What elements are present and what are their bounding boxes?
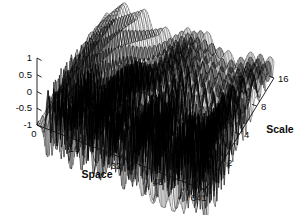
y-tick-label-1: 2 [227, 157, 232, 168]
z-tick-label-3: -0.5 [16, 102, 32, 113]
z-tick-label-2: 0 [27, 86, 32, 97]
z-tick-1 [37, 75, 42, 78]
z-tick-label-0: 1 [27, 52, 32, 63]
z-tick-0 [37, 58, 42, 61]
plot-canvas: 1 0.5 0 -0.5 -1 0 16 32 48 64 Space [0, 0, 307, 215]
x-tick-label-4: 64 [191, 192, 202, 203]
x-tick-label-0: 0 [31, 128, 36, 139]
y-tick-label-2: 4 [244, 129, 249, 140]
y-tick-label-0: 1 [201, 192, 206, 203]
x-tick-label-1: 16 [69, 143, 80, 154]
x-axis-title: Space [82, 168, 113, 180]
x-tick-label-3: 48 [153, 176, 164, 187]
y-tick-3 [252, 104, 257, 106]
z-tick-2 [37, 92, 42, 95]
surface-plot-figure: 1 0.5 0 -0.5 -1 0 16 32 48 64 Space [0, 0, 307, 215]
y-axis-title: Scale [266, 123, 294, 135]
z-axis: 1 0.5 0 -0.5 -1 [16, 52, 42, 130]
z-tick-label-1: 0.5 [19, 69, 32, 80]
y-tick-label-3: 8 [261, 101, 266, 112]
y-tick-label-4: 16 [278, 73, 289, 84]
z-tick-3 [37, 108, 42, 111]
